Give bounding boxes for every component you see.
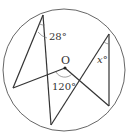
angle-label-120: 120° bbox=[52, 81, 76, 92]
circle bbox=[3, 9, 125, 131]
segment-c-d bbox=[51, 34, 109, 125]
angle-arc-28-outer bbox=[38, 32, 47, 38]
segment-a-b bbox=[13, 15, 43, 88]
circle-geometry-diagram: O 28° 120° x° bbox=[0, 0, 129, 135]
angle-label-x: x° bbox=[97, 54, 108, 65]
center-label: O bbox=[61, 54, 70, 67]
angle-label-28: 28° bbox=[49, 31, 67, 42]
angle-arc-120 bbox=[56, 72, 72, 77]
angle-arc-x bbox=[104, 42, 109, 44]
